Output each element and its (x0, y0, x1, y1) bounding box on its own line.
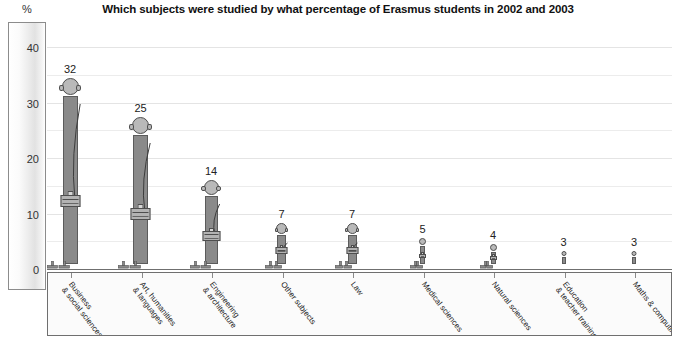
bar-figure[interactable]: 14 (200, 176, 223, 269)
feet-icon (47, 261, 70, 269)
bar-figure[interactable]: 7 (272, 219, 291, 269)
bar-value-label: 7 (349, 208, 355, 220)
bar-head-icon (132, 117, 149, 134)
bag-ridge (348, 251, 356, 252)
plot-area: 322514775433 (47, 22, 672, 270)
bag-ridge (421, 256, 424, 257)
bar-figure[interactable]: 32 (58, 74, 83, 269)
ear-icon (345, 228, 348, 232)
bar-value-label: 3 (631, 236, 637, 248)
feet-icon (265, 261, 282, 269)
bag-icon (490, 256, 497, 260)
category-label: Medical sciences (419, 280, 464, 334)
bar-value-label: 5 (419, 223, 425, 235)
bar-figure[interactable]: 25 (128, 113, 153, 269)
y-axis-tick-40: 40 (27, 42, 39, 54)
ear-icon (59, 85, 64, 91)
category-label: Business & social sciences (60, 280, 112, 336)
gridline (47, 47, 672, 48)
shoulder-strap-icon (68, 104, 83, 199)
y-axis-panel: 010203040 (8, 22, 46, 290)
shoulder-strap-icon (139, 143, 154, 212)
bar-value-label: 32 (64, 63, 76, 75)
category-tick (212, 273, 213, 278)
bar-value-label: 7 (278, 208, 284, 220)
category-label: Maths & computing (631, 280, 672, 336)
ear-icon (129, 124, 134, 130)
bag-flap (133, 212, 149, 213)
bar-value-label: 3 (560, 236, 566, 248)
category-tick (283, 273, 284, 278)
y-axis-tick-20: 20 (27, 153, 39, 165)
ear-icon (285, 228, 288, 232)
category-tick (565, 273, 566, 278)
bar-head-icon (204, 180, 219, 195)
bar-head-icon (62, 78, 79, 95)
chart-root: % Which subjects were studied by what pe… (0, 0, 677, 340)
y-axis-tick-0: 0 (33, 264, 39, 276)
bar-figure[interactable]: 3 (557, 247, 571, 269)
bag-icon (202, 231, 220, 241)
y-axis-tick-10: 10 (27, 209, 39, 221)
ear-icon (201, 186, 206, 191)
ear-icon (147, 124, 152, 130)
bar-head-icon (561, 251, 566, 256)
bag-icon (346, 247, 358, 254)
bag-flap (204, 234, 218, 235)
bar-head-icon (347, 223, 358, 234)
bar-head-icon (490, 244, 497, 251)
bar-value-label: 4 (490, 229, 496, 241)
bag-icon (60, 195, 80, 207)
category-label: Other subjects (278, 280, 317, 326)
ear-icon (275, 228, 278, 232)
bag-icon (276, 247, 288, 254)
bag-ridge (204, 238, 218, 239)
category-label: Engineering & architecture (201, 280, 246, 330)
bar-head-icon (419, 238, 426, 245)
feet-icon (190, 261, 211, 269)
ear-icon (356, 228, 359, 232)
y-axis-tick-30: 30 (27, 98, 39, 110)
category-label: Art, humanities & languages (130, 280, 177, 333)
category-label: Education & teacher training (553, 280, 606, 336)
feet-icon (118, 261, 141, 269)
category-tick (353, 273, 354, 278)
feet-icon (410, 261, 423, 269)
bag-flap (62, 199, 78, 200)
feet-icon (335, 261, 352, 269)
category-tick (142, 273, 143, 278)
category-tick (494, 273, 495, 278)
bar-value-label: 25 (134, 102, 146, 114)
bar-figure[interactable]: 4 (486, 240, 501, 269)
y-axis-unit-label: % (22, 3, 32, 15)
category-label: Natural sciences (490, 280, 534, 332)
bar-figure[interactable]: 7 (343, 219, 362, 269)
category-label: Law (349, 280, 365, 297)
ear-icon (216, 186, 221, 191)
feet-icon (480, 261, 493, 269)
chart-title: Which subjects were studied by what perc… (88, 3, 588, 15)
bar-figure[interactable]: 5 (415, 234, 430, 269)
category-tick (424, 273, 425, 278)
category-label-panel: Business & social sciencesArt, humanitie… (47, 272, 672, 336)
bar-body (632, 257, 636, 264)
x-axis-baseline (47, 269, 672, 270)
bag-ridge (62, 203, 78, 204)
bag-icon (419, 254, 426, 258)
ear-icon (76, 85, 81, 91)
category-tick (635, 273, 636, 278)
bar-head-icon (632, 251, 637, 256)
bar-value-label: 14 (205, 165, 217, 177)
bag-ridge (278, 251, 286, 252)
bag-ridge (492, 258, 495, 259)
bar-head-icon (276, 223, 287, 234)
category-tick (71, 273, 72, 278)
bag-ridge (133, 216, 149, 217)
bar-figure[interactable]: 3 (627, 247, 641, 269)
bar-body (562, 257, 566, 264)
bag-icon (131, 208, 151, 220)
gridline (47, 75, 672, 76)
